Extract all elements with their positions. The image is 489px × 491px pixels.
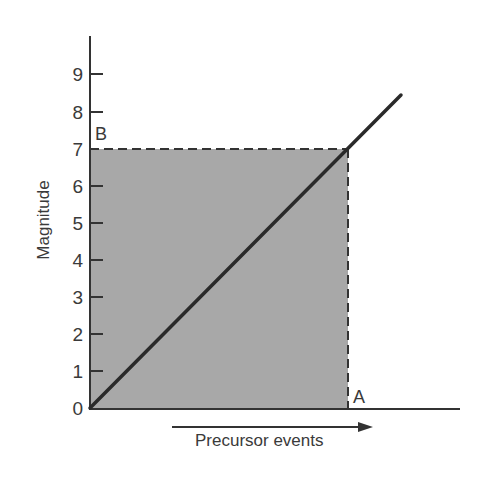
y-tick-labels: 0 1 2 3 4 5 6 7 8 9 <box>72 64 83 419</box>
tick-label-0: 0 <box>72 398 83 419</box>
chart: 0 1 2 3 4 5 6 7 8 9 B A Magnitude Precur… <box>0 0 489 491</box>
point-label-b: B <box>95 124 107 144</box>
y-axis-label: Magnitude <box>34 180 53 259</box>
tick-label-8: 8 <box>72 102 83 123</box>
tick-label-9: 9 <box>72 64 83 85</box>
tick-label-3: 3 <box>72 287 83 308</box>
point-label-a: A <box>353 387 365 407</box>
tick-label-7: 7 <box>72 139 83 160</box>
tick-label-6: 6 <box>72 176 83 197</box>
tick-label-4: 4 <box>72 250 83 271</box>
tick-label-1: 1 <box>72 361 83 382</box>
tick-label-5: 5 <box>72 213 83 234</box>
tick-label-2: 2 <box>72 324 83 345</box>
x-axis-label: Precursor events <box>195 431 324 450</box>
